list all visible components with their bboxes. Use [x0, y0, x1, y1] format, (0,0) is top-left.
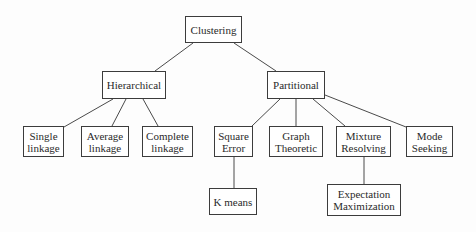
- node-complete-linkage: Complete linkage: [142, 126, 193, 157]
- edge-clustering-hierarchical: [155, 43, 193, 71]
- node-clustering: Clustering: [185, 16, 242, 43]
- edge-partitional-square-error: [252, 99, 280, 126]
- edge-hierarchical-single-linkage: [64, 99, 113, 127]
- node-average-linkage: Average linkage: [81, 126, 129, 157]
- node-hierarchical: Hierarchical: [102, 71, 166, 99]
- node-mode-seeking: Mode Seeking: [406, 126, 453, 157]
- edge-hierarchical-complete-linkage: [143, 99, 158, 126]
- edge-clustering-partitional: [234, 43, 276, 71]
- node-graph-theoretic: Graph Theoretic: [269, 126, 323, 157]
- node-square-error: Square Error: [214, 126, 253, 157]
- edge-partitional-mixture-resolving: [313, 99, 345, 126]
- node-expectation-maximization: Expectation Maximization: [327, 184, 401, 216]
- edge-partitional-mode-seeking: [325, 95, 406, 127]
- node-k-means: K means: [209, 188, 257, 215]
- node-mixture-resolving: Mixture Resolving: [336, 126, 391, 157]
- clustering-taxonomy-diagram: Clustering Hierarchical Partitional Sing…: [0, 0, 476, 232]
- node-single-linkage: Single linkage: [23, 126, 64, 157]
- node-partitional: Partitional: [267, 71, 325, 99]
- edge-hierarchical-average-linkage: [112, 99, 126, 126]
